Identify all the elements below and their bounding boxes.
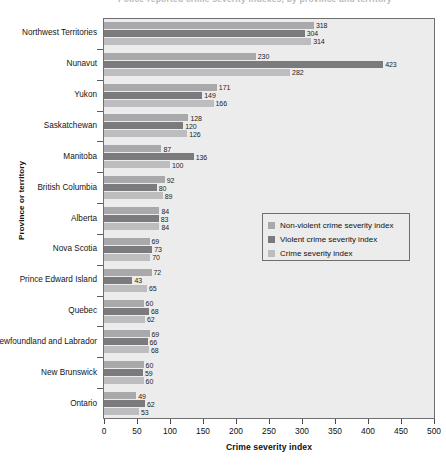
x-axis-tick bbox=[170, 419, 171, 424]
legend-item-total: Crime severity index bbox=[268, 246, 404, 260]
legend-label-total: Crime severity index bbox=[280, 249, 352, 258]
bar bbox=[104, 246, 152, 253]
x-axis-tick bbox=[236, 419, 237, 424]
bar bbox=[104, 400, 145, 407]
bar-value-label: 68 bbox=[151, 308, 159, 315]
bar bbox=[104, 300, 144, 307]
x-axis-tick-label: 50 bbox=[132, 426, 141, 436]
bar-value-label: 87 bbox=[163, 146, 171, 153]
x-axis-tick bbox=[302, 419, 303, 424]
bar-value-label: 126 bbox=[189, 131, 200, 138]
x-axis-tick-label: 150 bbox=[196, 426, 210, 436]
bar-value-label: 66 bbox=[150, 339, 158, 346]
y-axis-tick bbox=[97, 296, 103, 297]
x-axis-tick bbox=[401, 419, 402, 424]
bar-value-label: 65 bbox=[149, 285, 157, 292]
bar-value-label: 53 bbox=[141, 409, 149, 416]
bar-value-label: 166 bbox=[216, 100, 227, 107]
bar bbox=[104, 30, 305, 37]
bar-value-label: 149 bbox=[204, 92, 215, 99]
bar bbox=[104, 254, 150, 261]
bar bbox=[104, 316, 145, 323]
bar-value-label: 68 bbox=[151, 347, 159, 354]
bar-value-label: 84 bbox=[161, 224, 169, 231]
bar-value-label: 171 bbox=[219, 84, 230, 91]
chart-title-strip: Police-reported crime severity indexes, … bbox=[0, 0, 446, 11]
bar bbox=[104, 346, 149, 353]
bar bbox=[104, 100, 214, 107]
bar bbox=[104, 207, 159, 214]
bar bbox=[104, 330, 150, 337]
bar-value-label: 128 bbox=[190, 115, 201, 122]
y-axis-tick bbox=[97, 388, 103, 389]
y-axis-tick bbox=[97, 141, 103, 142]
bar bbox=[104, 269, 152, 276]
x-axis-tick bbox=[335, 419, 336, 424]
y-axis-tick bbox=[97, 80, 103, 81]
x-axis-tick-label: 400 bbox=[361, 426, 375, 436]
bar bbox=[104, 184, 157, 191]
bar bbox=[104, 308, 149, 315]
bar-value-label: 92 bbox=[167, 177, 175, 184]
crime-severity-bar-chart: Police-reported crime severity indexes, … bbox=[0, 0, 446, 471]
category-label: Ontario bbox=[70, 399, 97, 408]
bar bbox=[104, 114, 188, 121]
bar bbox=[104, 408, 139, 415]
bar bbox=[104, 122, 183, 129]
bar-value-label: 60 bbox=[146, 378, 154, 385]
x-axis-tick-label: 200 bbox=[229, 426, 243, 436]
x-axis-tick-label: 0 bbox=[102, 426, 107, 436]
bar-value-label: 60 bbox=[146, 300, 154, 307]
bar-value-label: 72 bbox=[154, 269, 162, 276]
bar bbox=[104, 69, 290, 76]
bar-value-label: 43 bbox=[134, 277, 142, 284]
category-label: British Columbia bbox=[37, 183, 97, 192]
bar bbox=[104, 192, 163, 199]
x-axis-tick bbox=[137, 419, 138, 424]
bar bbox=[104, 61, 383, 68]
category-label: Saskatchewan bbox=[44, 121, 97, 130]
bar bbox=[104, 53, 256, 60]
bar bbox=[104, 38, 311, 45]
y-axis-tick bbox=[97, 265, 103, 266]
bar bbox=[104, 215, 159, 222]
legend-swatch-icon-violent bbox=[268, 236, 275, 243]
x-axis-title: Crime severity index bbox=[103, 442, 435, 452]
bar-value-label: 423 bbox=[385, 61, 396, 68]
bar-value-label: 62 bbox=[147, 316, 155, 323]
x-axis-tick-label: 450 bbox=[394, 426, 408, 436]
category-label: Alberta bbox=[71, 214, 97, 223]
x-axis-tick bbox=[368, 419, 369, 424]
bar-value-label: 89 bbox=[165, 193, 173, 200]
bar-value-label: 318 bbox=[316, 22, 327, 29]
bar bbox=[104, 361, 144, 368]
bar-value-label: 83 bbox=[161, 216, 169, 223]
x-axis-tick-label: 350 bbox=[328, 426, 342, 436]
category-label: Newfoundland and Labrador bbox=[0, 337, 97, 346]
bar-value-label: 84 bbox=[161, 208, 169, 215]
x-axis-tick bbox=[203, 419, 204, 424]
chart-title: Police-reported crime severity indexes, … bbox=[118, 0, 392, 4]
bar-value-label: 69 bbox=[152, 331, 160, 338]
bar bbox=[104, 238, 150, 245]
bar-value-label: 136 bbox=[196, 154, 207, 161]
y-axis-tick bbox=[97, 172, 103, 173]
bar-value-label: 304 bbox=[307, 30, 318, 37]
x-axis-tick bbox=[434, 419, 435, 424]
category-label: Yukon bbox=[74, 90, 97, 99]
category-label: Nunavut bbox=[67, 59, 98, 68]
chart-legend: Non-violent crime severity index Violent… bbox=[262, 213, 410, 261]
category-label: Manitoba bbox=[63, 152, 97, 161]
bar bbox=[104, 84, 217, 91]
bar bbox=[104, 223, 159, 230]
bar-value-label: 62 bbox=[147, 401, 155, 408]
category-label: Northwest Territories bbox=[22, 28, 97, 37]
bar-value-label: 73 bbox=[154, 246, 162, 253]
legend-label-non-violent: Non-violent crime severity index bbox=[280, 221, 393, 230]
bar bbox=[104, 338, 148, 345]
legend-item-violent: Violent crime severity index bbox=[268, 232, 404, 246]
bar bbox=[104, 145, 161, 152]
bar bbox=[104, 161, 170, 168]
bar bbox=[104, 392, 136, 399]
bar-value-label: 100 bbox=[172, 162, 183, 169]
